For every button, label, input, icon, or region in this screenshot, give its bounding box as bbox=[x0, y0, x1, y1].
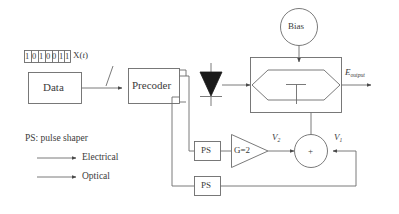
amplifier-gain-label: G=2 bbox=[234, 146, 250, 155]
output-field-sub: output bbox=[351, 72, 365, 78]
legend-abbreviation: PS: pulse shaper bbox=[25, 134, 88, 144]
modulator-rect bbox=[251, 58, 342, 113]
legend-item-electrical-label: Electrical bbox=[82, 153, 118, 163]
bitstream-digit-4: 0 bbox=[52, 52, 57, 61]
bias-block-label: Bias bbox=[288, 22, 304, 31]
bitstream-digit-3: 0 bbox=[46, 52, 51, 61]
diagram-canvas: 1 0 1 0 0 1 1 X(t) Data Precoder Bias Eo… bbox=[0, 0, 399, 214]
signal-xt-label: X(t) bbox=[73, 51, 88, 60]
voltage-v1-sub: 1 bbox=[340, 137, 343, 143]
precoder-tail-upper bbox=[180, 70, 187, 76]
wire-precoder-lower-to-ps bbox=[172, 97, 194, 186]
bitstream-digit-5: 1 bbox=[59, 52, 64, 61]
precoder-block-label: Precoder bbox=[132, 80, 171, 91]
bitstream-digit-2: 1 bbox=[39, 52, 44, 61]
xt-leader-line bbox=[106, 66, 113, 86]
laser-diode-triangle bbox=[200, 72, 222, 96]
summer-plus-label: + bbox=[308, 147, 313, 156]
ps-lower-label: PS bbox=[201, 181, 211, 190]
output-field-label: Eoutput bbox=[345, 68, 365, 78]
voltage-v1-label: V1 bbox=[334, 133, 342, 143]
voltage-v2-label: V2 bbox=[272, 133, 280, 143]
bitstream-digit-6: 1 bbox=[65, 52, 70, 61]
data-block-label: Data bbox=[43, 82, 64, 93]
ps-upper-label: PS bbox=[201, 146, 211, 155]
bitstream-digit-0: 1 bbox=[25, 52, 30, 61]
diagram-svg bbox=[0, 0, 399, 214]
voltage-v2-sub: 2 bbox=[278, 137, 281, 143]
legend-item-optical-label: Optical bbox=[82, 172, 110, 182]
wire-precoder-upper-to-ps bbox=[180, 76, 195, 151]
bitstream-digit-1: 0 bbox=[32, 52, 37, 61]
signal-xt-base: X bbox=[73, 50, 80, 60]
signal-xt-var: t bbox=[83, 50, 86, 60]
